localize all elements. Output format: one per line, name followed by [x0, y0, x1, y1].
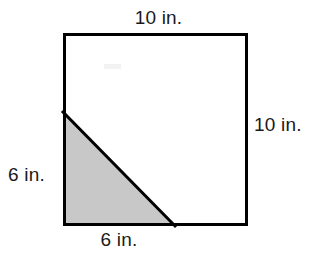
- geometry-figure: 10 in. 10 in. 6 in. 6 in.: [0, 0, 319, 255]
- dimension-label-top: 10 in.: [0, 8, 319, 27]
- dimension-label-left: 6 in.: [8, 165, 45, 184]
- faint-smudge-artifact: [104, 64, 121, 69]
- dimension-label-bottom: 6 in.: [63, 230, 175, 249]
- dimension-label-right: 10 in.: [254, 115, 302, 134]
